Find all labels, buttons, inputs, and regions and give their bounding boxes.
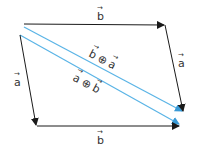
vector-b-plus-a	[24, 27, 182, 111]
svg-text:a: a	[178, 57, 185, 70]
label-b-plus-a: → b ⊕ → a	[87, 42, 121, 72]
label-b-bottom: → b	[97, 128, 104, 147]
vector-a-left	[20, 35, 36, 125]
label-a-right: → a	[178, 51, 185, 70]
vector-addition-diagram: → b → a → a → b → b ⊕ → a → a ⊕ → b	[0, 0, 198, 153]
label-a-left: → a	[14, 70, 21, 89]
svg-text:b: b	[97, 10, 104, 23]
vector-b-top	[24, 24, 164, 25]
svg-text:b: b	[97, 134, 104, 147]
svg-text:a: a	[14, 76, 21, 89]
label-b-top: → b	[97, 4, 104, 23]
svg-text:a: a	[106, 57, 118, 72]
label-a-plus-b: → a ⊕ → b	[71, 66, 106, 96]
svg-text:b: b	[90, 81, 102, 96]
